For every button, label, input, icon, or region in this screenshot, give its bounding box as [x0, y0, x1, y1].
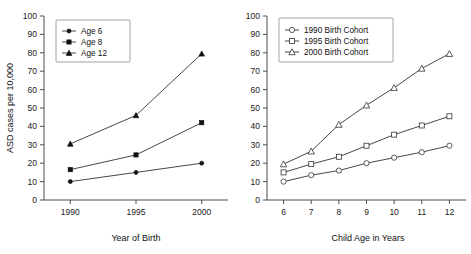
- figure-two-panel-line-charts: 0102030405060708090100 199019952000 Age …: [0, 0, 471, 254]
- data-point-3-7: [446, 51, 452, 57]
- data-point-1-6: [419, 150, 424, 155]
- series-line-3: [70, 54, 201, 144]
- legend-label-2: 1995 Birth Cohort: [304, 37, 369, 46]
- y-tick-label: 90: [28, 29, 38, 39]
- y-tick-label: 60: [251, 85, 261, 95]
- data-point-1-3: [200, 161, 204, 165]
- y-tick-label: 20: [251, 158, 261, 168]
- left-x-axis-title: Year of Birth: [111, 233, 160, 243]
- data-point-1-1: [68, 180, 72, 184]
- y-tick-label: 20: [28, 158, 38, 168]
- y-tick-label: 70: [251, 66, 261, 76]
- series-line-2: [70, 123, 201, 170]
- data-point-1-7: [447, 143, 452, 148]
- x-tick-label: 11: [417, 207, 426, 217]
- right-x-ticks: 6789101112: [281, 200, 454, 217]
- data-point-1-2: [309, 173, 314, 178]
- y-tick-label: 10: [28, 177, 38, 187]
- y-tick-label: 0: [255, 195, 260, 205]
- left-chart-svg: 0102030405060708090100 199019952000 Age …: [0, 0, 236, 254]
- x-tick-label: 9: [364, 207, 369, 217]
- y-tick-label: 0: [32, 195, 37, 205]
- data-point-2-1: [281, 170, 286, 175]
- data-point-3-1: [67, 141, 73, 146]
- y-tick-label: 80: [251, 48, 261, 58]
- data-point-1-5: [392, 155, 397, 160]
- left-legend: Age 6Age 8Age 12: [56, 20, 130, 62]
- data-point-1-1: [281, 179, 286, 184]
- legend-marker-2: [290, 39, 295, 44]
- left-y-ticks: 0102030405060708090100: [23, 11, 44, 205]
- legend-marker-2: [67, 40, 71, 44]
- right-legend: 1990 Birth Cohort1995 Birth Cohort2000 B…: [279, 18, 393, 62]
- x-tick-label: 12: [445, 207, 455, 217]
- y-tick-label: 90: [251, 29, 261, 39]
- y-tick-label: 60: [28, 85, 38, 95]
- x-tick-label: 6: [281, 207, 286, 217]
- y-tick-label: 70: [28, 66, 38, 76]
- x-tick-label: 10: [389, 207, 399, 217]
- data-point-2-5: [392, 132, 397, 137]
- left-x-ticks: 199019952000: [61, 200, 212, 217]
- data-point-2-7: [447, 114, 452, 119]
- x-tick-label: 8: [336, 207, 341, 217]
- legend-marker-1: [67, 29, 71, 33]
- data-point-3-4: [363, 102, 369, 108]
- right-series-group: [280, 51, 452, 185]
- y-tick-label: 80: [28, 48, 38, 58]
- data-point-1-3: [336, 168, 341, 173]
- y-tick-label: 50: [251, 103, 261, 113]
- chart-panel-left: 0102030405060708090100 199019952000 Age …: [0, 0, 236, 254]
- right-y-ticks: 0102030405060708090100: [246, 11, 267, 205]
- y-tick-label: 50: [28, 103, 38, 113]
- data-point-2-2: [309, 162, 314, 167]
- data-point-3-3: [336, 121, 342, 127]
- left-y-axis-title: ASD cases per 10,000: [5, 63, 15, 153]
- right-x-axis-title: Child Age in Years: [331, 233, 405, 243]
- data-point-1-2: [134, 170, 138, 174]
- y-tick-label: 30: [28, 140, 38, 150]
- data-point-2-1: [68, 168, 72, 172]
- right-chart-svg: 0102030405060708090100 6789101112 1990 B…: [235, 0, 471, 254]
- left-series-group: [67, 51, 204, 184]
- data-point-3-5: [391, 85, 397, 91]
- data-point-2-3: [336, 154, 341, 159]
- data-point-3-6: [419, 65, 425, 71]
- y-tick-label: 10: [251, 177, 261, 187]
- x-tick-label: 2000: [192, 207, 211, 217]
- legend-label-1: 1990 Birth Cohort: [304, 26, 369, 35]
- x-tick-label: 7: [309, 207, 314, 217]
- data-point-2-2: [134, 153, 138, 157]
- legend-label-1: Age 6: [81, 27, 103, 36]
- data-point-3-3: [199, 51, 205, 56]
- data-point-2-6: [419, 123, 424, 128]
- x-tick-label: 1995: [127, 207, 146, 217]
- x-tick-label: 1990: [61, 207, 80, 217]
- y-tick-label: 40: [28, 121, 38, 131]
- legend-label-3: Age 12: [81, 49, 107, 58]
- data-point-2-4: [364, 143, 369, 148]
- legend-label-2: Age 8: [81, 38, 103, 47]
- chart-panel-right: 0102030405060708090100 6789101112 1990 B…: [235, 0, 471, 254]
- data-point-3-1: [280, 161, 286, 167]
- data-point-1-4: [364, 161, 369, 166]
- data-point-2-3: [200, 121, 204, 125]
- y-tick-label: 30: [251, 140, 261, 150]
- legend-label-3: 2000 Birth Cohort: [304, 48, 369, 57]
- legend-marker-1: [289, 27, 294, 32]
- y-tick-label: 100: [246, 11, 260, 21]
- y-tick-label: 100: [23, 11, 37, 21]
- y-tick-label: 40: [251, 121, 261, 131]
